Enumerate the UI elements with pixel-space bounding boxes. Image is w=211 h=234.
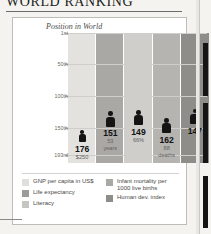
person-body [162,123,171,133]
page-edge-line [199,0,200,234]
tick-mark [65,96,68,97]
legend-swatch [22,201,29,208]
person-body [79,134,86,142]
legend-label: Infant mortality per [117,178,167,185]
plot-area: 1st50th100th150th193rd 176$25015153years… [42,33,178,163]
legend-swatch [106,195,113,202]
metric-value: $250 [62,154,102,160]
legend-label: GNP per capita in US$ [33,178,94,185]
page-edge-mark-1 [203,43,208,96]
person-head [164,118,169,123]
person-body [106,117,115,127]
legend-label: Human dev. index [117,194,165,201]
tick-mark [65,128,68,129]
legend-item[interactable]: Literacy [22,200,100,210]
page-title: WORLD RANKING [6,0,184,8]
chart-legend: GNP per capita in US$Life expectancyLite… [22,178,182,220]
legend-item[interactable]: GNP per capita in US$ [22,178,100,188]
legend-item[interactable]: Human dev. index [106,194,182,204]
title-divider [6,11,182,12]
legend-label: Literacy [33,200,54,207]
rank-value: 162 [147,136,187,145]
page-edge-mark-3 [203,176,208,228]
tick-mark [65,33,68,34]
gridline [66,33,207,34]
metric-unit: years [90,145,130,151]
gridline [66,96,207,97]
tick-mark [65,64,68,65]
person-icon [105,111,116,126]
person-icon [161,118,172,133]
legend-swatch [22,190,29,197]
person-head [108,111,113,116]
person-body [134,115,143,125]
person-head [80,130,84,134]
data-label: 16288deaths [147,136,187,158]
person-icon [133,110,144,125]
bottom-rule [0,219,22,220]
person-icon [77,130,88,142]
gridline [66,64,207,65]
legend-item[interactable]: Infant mortality per1000 live births [106,178,182,193]
page-edge-mark-2 [203,103,208,163]
metric-unit: deaths [147,152,187,158]
legend-column-left: GNP per capita in US$Life expectancyLite… [22,178,100,211]
legend-column-right: Infant mortality per1000 live birthsHuma… [106,178,182,205]
legend-swatch [22,179,29,186]
legend-divider [22,173,179,174]
person-head [136,110,141,115]
legend-swatch [106,179,113,186]
legend-label-line2: 1000 live births [117,185,157,192]
legend-item[interactable]: Life expectancy [22,189,100,199]
chart-panel: Position in World 1st50th100th150th193rd… [12,17,187,225]
page-background: WORLD RANKING Position in World 1st50th1… [0,0,211,234]
legend-label: Life expectancy [33,189,75,196]
